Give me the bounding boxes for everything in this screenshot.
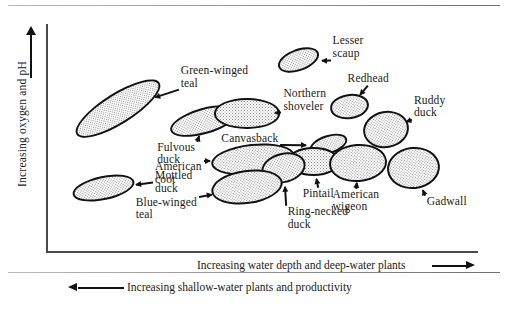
leader-arrow-icon — [196, 136, 199, 142]
bottom-divider — [8, 272, 500, 273]
x-axis-primary-caption: Increasing water depth and deep-water pl… — [197, 259, 406, 271]
leader-arrow-icon — [316, 179, 319, 188]
species-label: Lesser scaup — [333, 34, 364, 59]
top-divider — [8, 5, 500, 6]
species-label: Canvasback — [221, 132, 278, 145]
species-label: Blue-winged teal — [136, 196, 197, 221]
left-arrow-icon — [68, 283, 124, 292]
leader-arrow-icon — [204, 160, 210, 162]
y-axis-line — [46, 24, 48, 253]
leader-arrow-icon — [275, 112, 281, 114]
species-label: American coot — [155, 160, 202, 185]
leader-arrow-icon — [406, 119, 412, 123]
species-label: Gadwall — [427, 195, 467, 208]
right-arrow-icon — [432, 261, 476, 270]
leader-arrow-icon — [284, 186, 287, 205]
species-ellipse — [214, 98, 279, 128]
species-ellipse — [69, 70, 169, 149]
species-ellipse — [70, 170, 137, 206]
y-axis-label: Increasing oxygen and pH — [16, 24, 28, 224]
leader-arrow-icon — [360, 85, 369, 96]
figure-canvas: Increasing oxygen and pH Green-winged te… — [0, 0, 506, 315]
species-label: American wigeon — [333, 188, 380, 213]
leader-arrow-icon — [355, 182, 357, 188]
leader-arrow-icon — [199, 193, 212, 197]
species-label: Redhead — [348, 72, 389, 85]
species-ellipse — [329, 92, 371, 122]
species-label: Pintail — [303, 187, 334, 200]
species-label: Ruddy duck — [414, 94, 445, 119]
x-axis-secondary-caption: Increasing shallow-water plants and prod… — [127, 281, 352, 293]
species-label: Green-winged teal — [181, 64, 249, 89]
leader-arrow-icon — [422, 190, 426, 196]
leader-arrow-icon — [136, 182, 153, 186]
species-ellipse — [385, 145, 442, 192]
leader-arrow-icon — [322, 60, 331, 62]
species-label: Northern shoveler — [283, 87, 326, 112]
x-axis-line — [46, 251, 478, 253]
species-ellipse — [275, 42, 323, 77]
